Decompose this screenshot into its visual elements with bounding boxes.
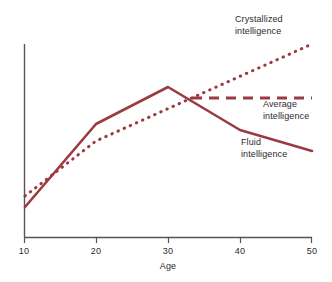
series-label-crystallized: Crystallized intelligence (235, 14, 283, 37)
x-axis-title: Age (138, 261, 198, 271)
series-label-average: Average intelligence (263, 99, 309, 122)
x-tick-label-40: 40 (225, 246, 255, 256)
x-tick-label-50: 50 (297, 246, 327, 256)
intelligence-across-age-chart: 10 20 30 40 50 Age Crystallized intellig… (0, 0, 332, 282)
x-tick-label-30: 30 (153, 246, 183, 256)
x-tick-label-20: 20 (81, 246, 111, 256)
series-label-fluid: Fluid intelligence (241, 137, 287, 160)
x-tick-label-10: 10 (9, 246, 39, 256)
